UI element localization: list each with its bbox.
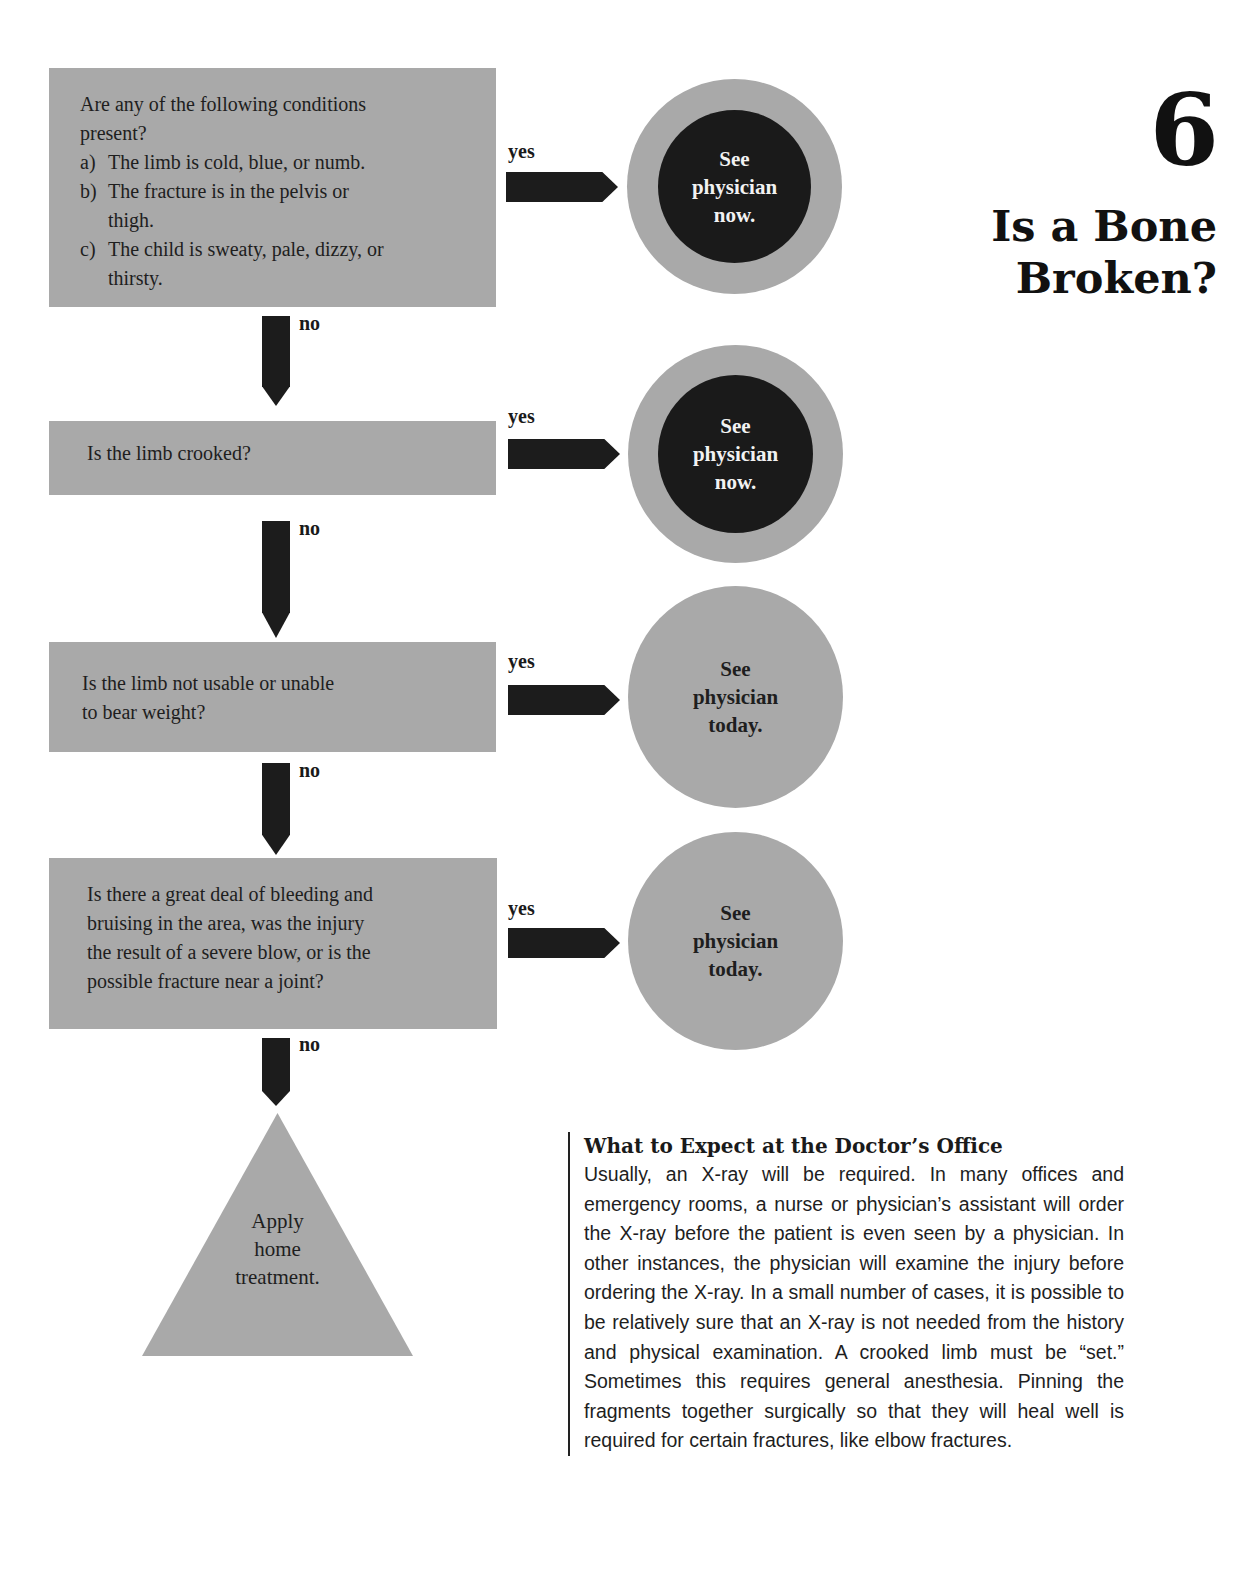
no-arrow-icon-3 xyxy=(262,763,290,855)
no-label-4: no xyxy=(299,1033,320,1056)
question-box-1: Are any of the following conditions pres… xyxy=(49,68,496,307)
yes-arrow-icon-3 xyxy=(508,685,620,715)
home-treatment-text: Apply home treatment. xyxy=(142,1207,413,1291)
no-arrow-icon-1 xyxy=(262,316,290,406)
title-line: Broken? xyxy=(991,252,1217,304)
condition-item-a: a) The limb is cold, blue, or numb. xyxy=(80,148,490,177)
sidebar-body: Usually, an X-ray will be required. In m… xyxy=(584,1160,1124,1456)
question-1-intro: Are any of the following conditions pres… xyxy=(80,90,490,148)
outcome-circle-2: See physician now. xyxy=(628,345,843,563)
no-arrow-icon-2 xyxy=(262,521,290,638)
question-box-3: Is the limb not usable or unable to bear… xyxy=(49,642,496,752)
yes-arrow-icon-4 xyxy=(508,928,620,958)
no-label-1: no xyxy=(299,312,320,335)
question-box-2: Is the limb crooked? xyxy=(49,421,496,495)
outcome-circle-4: See physician today. xyxy=(628,832,843,1050)
condition-item-b: b) The fracture is in the pelvis or thig… xyxy=(80,177,490,235)
outcome-circle-3: See physician today. xyxy=(628,586,843,808)
condition-item-c: c) The child is sweaty, pale, dizzy, or … xyxy=(80,235,490,293)
yes-label-3: yes xyxy=(508,650,535,673)
chapter-number: 6 xyxy=(1149,80,1219,180)
no-label-2: no xyxy=(299,517,320,540)
condition-list: a) The limb is cold, blue, or numb. b) T… xyxy=(80,148,490,293)
title-line: Is a Bone xyxy=(991,200,1217,252)
outcome-circle-1: See physician now. xyxy=(627,79,842,294)
yes-arrow-icon-2 xyxy=(508,439,620,469)
outcome-text-1: See physician now. xyxy=(692,145,777,229)
yes-label-4: yes xyxy=(508,897,535,920)
yes-label-1: yes xyxy=(508,140,535,163)
sidebar-heading: What to Expect at the Doctor’s Office xyxy=(584,1132,1124,1160)
question-3-text: Is the limb not usable or unable to bear… xyxy=(82,669,334,727)
yes-arrow-icon-1 xyxy=(506,172,618,202)
outcome-text-4: See physician today. xyxy=(693,899,778,983)
doctor-office-sidebar: What to Expect at the Doctor’s Office Us… xyxy=(568,1132,1124,1456)
outcome-text-2: See physician now. xyxy=(693,412,778,496)
question-4-text: Is there a great deal of bleeding and br… xyxy=(87,880,373,996)
yes-label-2: yes xyxy=(508,405,535,428)
outcome-text-3: See physician today. xyxy=(693,655,778,739)
question-2-text: Is the limb crooked? xyxy=(87,439,251,468)
question-box-4: Is there a great deal of bleeding and br… xyxy=(49,858,497,1029)
no-label-3: no xyxy=(299,759,320,782)
page-title: Is a Bone Broken? xyxy=(991,200,1217,304)
no-arrow-icon-4 xyxy=(262,1038,290,1106)
